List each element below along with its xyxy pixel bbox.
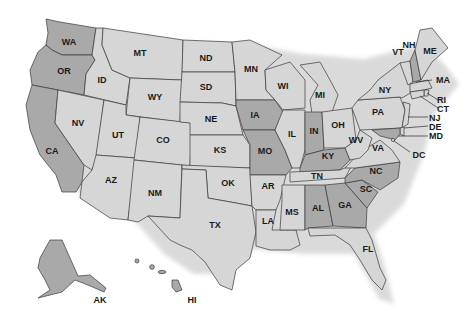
label-ca: CA <box>46 146 59 156</box>
label-la: LA <box>262 216 274 226</box>
label-pa: PA <box>372 107 384 117</box>
label-dc: DC <box>413 150 426 160</box>
label-ma: MA <box>436 75 450 85</box>
label-mo: MO <box>258 146 273 156</box>
state-ak[interactable] <box>38 240 106 298</box>
label-ia: IA <box>251 110 261 120</box>
label-sd: SD <box>200 82 213 92</box>
label-ut: UT <box>112 130 124 140</box>
label-ar: AR <box>262 181 275 191</box>
label-mt: MT <box>134 48 147 58</box>
label-nm: NM <box>148 188 162 198</box>
label-mi: MI <box>315 90 325 100</box>
label-me: ME <box>423 46 437 56</box>
label-nc: NC <box>370 166 383 176</box>
label-sc: SC <box>360 184 373 194</box>
label-az: AZ <box>105 175 117 185</box>
label-wv: WV <box>349 135 364 145</box>
label-nd: ND <box>200 53 213 63</box>
state-de[interactable] <box>400 127 404 136</box>
label-fl: FL <box>363 244 374 254</box>
label-ok: OK <box>221 178 235 188</box>
label-wy: WY <box>148 92 163 102</box>
label-nv: NV <box>72 118 85 128</box>
label-ms: MS <box>285 207 299 217</box>
state-ri[interactable] <box>424 90 429 96</box>
label-ne: NE <box>205 114 218 124</box>
label-tn: TN <box>311 171 323 181</box>
label-ga: GA <box>338 200 352 210</box>
label-ny: NY <box>379 85 392 95</box>
label-co: CO <box>156 135 170 145</box>
label-ak: AK <box>94 295 107 305</box>
label-wi: WI <box>278 81 289 91</box>
state-ia[interactable] <box>236 100 283 130</box>
label-ky: KY <box>322 151 335 161</box>
label-va: VA <box>372 143 384 153</box>
us-map: WA OR CA ID NV MT WY UT CO AZ NM ND SD N… <box>0 0 475 325</box>
label-al: AL <box>312 203 324 213</box>
label-ks: KS <box>214 145 227 155</box>
label-wa: WA <box>62 37 77 47</box>
label-nh: NH <box>403 40 416 50</box>
label-mn: MN <box>244 64 258 74</box>
label-or: OR <box>57 66 71 76</box>
label-oh: OH <box>331 120 345 130</box>
label-md: MD <box>429 131 443 141</box>
state-hi[interactable] <box>135 259 182 292</box>
label-hi: HI <box>188 295 197 305</box>
label-il: IL <box>288 129 297 139</box>
label-id: ID <box>98 75 108 85</box>
label-in: IN <box>310 126 319 136</box>
label-tx: TX <box>209 220 221 230</box>
